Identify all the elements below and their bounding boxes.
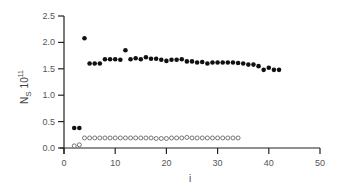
data-point xyxy=(103,57,108,62)
y-tick-label: 1.5 xyxy=(42,64,55,74)
data-point xyxy=(251,62,256,67)
data-point xyxy=(190,59,195,64)
data-point xyxy=(149,56,154,61)
data-point xyxy=(210,136,214,140)
data-point xyxy=(154,136,158,140)
data-point xyxy=(267,65,272,70)
data-point xyxy=(128,57,133,62)
data-point xyxy=(277,68,282,73)
data-point xyxy=(77,143,81,147)
data-point xyxy=(215,60,220,65)
data-point xyxy=(139,136,143,140)
data-point xyxy=(72,126,77,131)
data-point xyxy=(220,60,225,65)
data-point xyxy=(98,136,102,140)
y-tick-label: 1.0 xyxy=(42,90,55,100)
axes: 0.00.51.01.52.02.501020304050 xyxy=(42,11,325,168)
data-point xyxy=(149,136,153,140)
data-point xyxy=(246,62,251,67)
data-point xyxy=(144,136,148,140)
data-point xyxy=(108,136,112,140)
y-axis-label-exponent: 11 xyxy=(17,70,24,77)
x-tick-label: 0 xyxy=(61,158,66,168)
data-point xyxy=(236,136,240,140)
data-point xyxy=(180,136,184,140)
data-point xyxy=(103,136,107,140)
y-axis-label-factor: 10 xyxy=(19,77,30,89)
data-point xyxy=(241,61,246,66)
data-point xyxy=(82,136,86,140)
y-axis-label-subscript: S xyxy=(24,91,33,96)
data-point xyxy=(108,57,113,62)
data-point xyxy=(72,144,76,148)
series-open xyxy=(72,135,240,147)
y-axis-label-main: N xyxy=(19,97,30,104)
data-point xyxy=(113,136,117,140)
x-tick-label: 10 xyxy=(110,158,120,168)
x-tick-label: 50 xyxy=(315,158,325,168)
data-point xyxy=(226,136,230,140)
data-point xyxy=(200,136,204,140)
data-point xyxy=(216,136,220,140)
data-point xyxy=(236,61,241,66)
scatter-chart: 0.00.51.01.52.02.501020304050 i NS1011 xyxy=(0,0,342,192)
data-point xyxy=(174,58,179,63)
y-tick-label: 2.0 xyxy=(42,37,55,47)
series-filled xyxy=(72,36,281,130)
data-point xyxy=(226,60,231,65)
data-point xyxy=(123,136,127,140)
data-points xyxy=(72,36,281,148)
data-point xyxy=(77,126,82,131)
x-tick-label: 40 xyxy=(264,158,274,168)
x-tick-label: 30 xyxy=(213,158,223,168)
data-point xyxy=(133,56,138,61)
data-point xyxy=(210,60,215,65)
data-point xyxy=(164,59,169,64)
data-point xyxy=(87,61,92,66)
data-point xyxy=(272,68,277,73)
data-point xyxy=(256,64,261,69)
data-point xyxy=(118,136,122,140)
data-point xyxy=(231,136,235,140)
data-point xyxy=(154,56,159,61)
data-point xyxy=(98,61,103,66)
data-point xyxy=(123,48,128,53)
data-point xyxy=(82,36,87,41)
data-point xyxy=(185,59,190,64)
data-point xyxy=(92,61,97,66)
data-point xyxy=(113,57,118,62)
x-axis-label: i xyxy=(189,173,191,184)
data-point xyxy=(170,136,174,140)
data-point xyxy=(221,136,225,140)
data-point xyxy=(205,61,210,66)
data-point xyxy=(139,57,144,62)
data-point xyxy=(88,136,92,140)
data-point xyxy=(93,136,97,140)
data-point xyxy=(261,68,266,73)
data-point xyxy=(195,60,200,65)
svg-text:NS1011: NS1011 xyxy=(17,70,33,104)
y-axis-label: NS1011 xyxy=(17,70,33,104)
data-point xyxy=(159,136,163,140)
x-tick-label: 20 xyxy=(161,158,171,168)
data-point xyxy=(159,58,164,63)
y-tick-label: 0.5 xyxy=(42,117,55,127)
data-point xyxy=(195,136,199,140)
y-tick-label: 0.0 xyxy=(42,143,55,153)
data-point xyxy=(144,55,149,60)
data-point xyxy=(185,135,189,139)
data-point xyxy=(169,58,174,63)
data-point xyxy=(175,136,179,140)
data-point xyxy=(134,136,138,140)
data-point xyxy=(205,136,209,140)
data-point xyxy=(200,60,205,65)
y-tick-label: 2.5 xyxy=(42,11,55,21)
data-point xyxy=(179,57,184,62)
data-point xyxy=(129,136,133,140)
data-point xyxy=(118,58,123,63)
data-point xyxy=(164,136,168,140)
data-point xyxy=(231,60,236,65)
data-point xyxy=(190,136,194,140)
